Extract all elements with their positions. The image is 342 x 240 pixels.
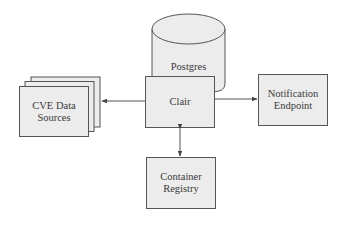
postgres-label-text: Postgres	[171, 61, 207, 73]
cve-sources-label-line2: Sources	[37, 112, 70, 124]
clair-label: Clair	[145, 95, 215, 109]
cve-sources-label-line1: CVE Data	[32, 100, 75, 112]
clair-label-text: Clair	[170, 96, 191, 108]
registry-label-line1: Container	[160, 171, 201, 183]
notification-label: Notification Endpoint	[258, 86, 328, 114]
notification-label-line2: Endpoint	[274, 100, 313, 112]
postgres-label: Postgres	[152, 60, 225, 74]
registry-label-line2: Registry	[163, 183, 199, 195]
registry-label: Container Registry	[146, 169, 216, 197]
notification-label-line1: Notification	[268, 88, 319, 100]
cve-sources-label: CVE Data Sources	[19, 98, 89, 126]
